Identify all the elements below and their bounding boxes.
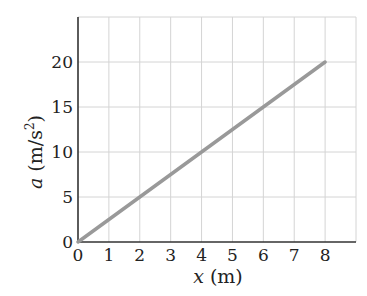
y-tick-label: 20 [51,52,73,72]
y-tick-labels: 05101520 [51,52,73,252]
x-tick-label: 4 [196,245,207,265]
x-tick-label: 1 [103,245,114,265]
axes [77,17,356,243]
x-tick-label: 7 [289,245,300,265]
x-tick-label: 6 [258,245,269,265]
y-axis-label: a(m/s2) [23,115,46,189]
x-tick-label: 2 [134,245,145,265]
x-tick-labels: 012345678 [73,245,331,265]
y-tick-label: 0 [62,232,73,252]
x-tick-label: 5 [227,245,238,265]
grid-lines [78,17,356,242]
chart: 012345678 05101520 x(m) a(m/s2) [0,0,367,296]
x-tick-label: 8 [320,245,331,265]
y-tick-label: 15 [51,97,73,117]
x-tick-label: 3 [165,245,176,265]
y-tick-label: 5 [62,187,73,207]
x-axis-label: x(m) [193,265,243,287]
y-tick-label: 10 [51,142,73,162]
x-tick-label: 0 [73,245,84,265]
